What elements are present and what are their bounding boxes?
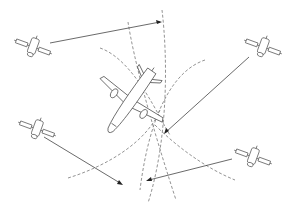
arrowhead-icon	[156, 20, 162, 24]
signal-line	[50, 22, 160, 43]
satellite-positioning-diagram	[0, 0, 290, 203]
satellite-icon	[11, 29, 56, 63]
signal-line	[149, 159, 232, 180]
signal-line	[44, 137, 120, 183]
wavefront-arc	[155, 125, 235, 180]
arrowhead-icon	[117, 180, 123, 185]
satellite-icon	[15, 111, 60, 145]
arrowhead-icon	[164, 128, 169, 134]
wavefront-arc	[148, 10, 165, 203]
airplane-icon	[78, 46, 186, 154]
satellite-icon	[231, 139, 276, 173]
wavefront-arcs	[68, 10, 235, 203]
arrowhead-icon	[146, 177, 152, 181]
signal-line	[166, 57, 249, 132]
